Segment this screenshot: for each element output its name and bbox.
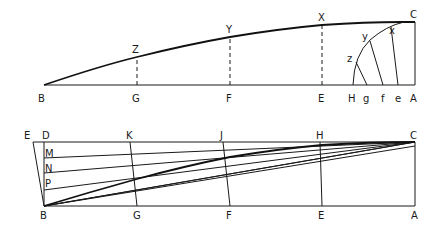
line-HE [320, 142, 322, 206]
label-Z: Z [132, 44, 139, 55]
label-G: G [133, 210, 141, 221]
label-g: g [363, 93, 369, 104]
label-F: F [226, 93, 232, 104]
label-G: G [132, 93, 140, 104]
label-E-bottom: E [318, 210, 324, 221]
ray-CP [44, 142, 415, 190]
label-F: F [226, 210, 232, 221]
geometric-construction-diagram: B G F E H g f e A C Z Y X z y x [0, 0, 437, 237]
label-K: K [126, 130, 133, 141]
label-z: z [347, 53, 352, 64]
label-x: x [389, 25, 395, 36]
top-figure: B G F E H g f e A C Z Y X z y x [38, 9, 417, 104]
label-E-top: E [24, 130, 30, 141]
label-C: C [410, 130, 417, 141]
label-M: M [45, 148, 54, 159]
label-E: E [318, 93, 324, 104]
label-C: C [410, 9, 417, 20]
label-J: J [219, 130, 223, 141]
ray-CM [44, 142, 415, 158]
label-A: A [410, 93, 417, 104]
label-B: B [38, 93, 45, 104]
label-H: H [348, 93, 356, 104]
label-D: D [42, 130, 50, 141]
label-f: f [381, 93, 385, 104]
arc-HC [353, 22, 404, 85]
label-B: B [40, 210, 47, 221]
label-X: X [318, 12, 325, 23]
label-A: A [411, 210, 418, 221]
line-zg [356, 62, 367, 85]
label-y: y [362, 31, 368, 42]
label-H: H [316, 130, 324, 141]
line-EB [33, 142, 44, 206]
label-N: N [45, 163, 52, 174]
ray-C-lower [44, 142, 415, 206]
label-Y: Y [225, 24, 233, 35]
label-e: e [395, 93, 401, 104]
line-KG [130, 142, 137, 206]
line-yf [370, 41, 383, 85]
bottom-figure: E D K J H C M N P B G F E A [24, 130, 418, 221]
label-P: P [45, 178, 51, 189]
